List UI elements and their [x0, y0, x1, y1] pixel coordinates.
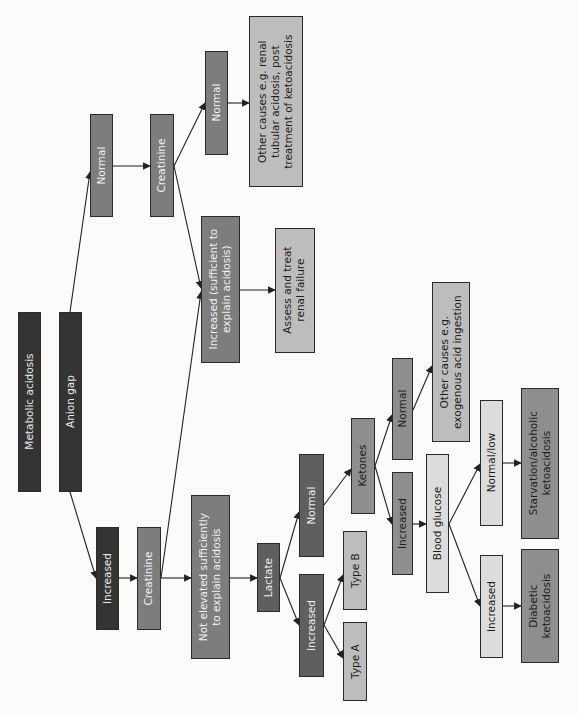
node-label: Increased — [305, 600, 318, 651]
node-label: Assess and treat renal failure — [282, 247, 308, 334]
node-label: Not elevated sufficiently to explain aci… — [197, 513, 223, 641]
node-label: Type B — [348, 553, 361, 588]
node-label: Anion gap — [64, 376, 77, 429]
node-anion-gap-increased: Increased — [96, 527, 119, 630]
node-label: Normal — [305, 487, 318, 525]
node-label: Lactate — [262, 558, 275, 597]
node-label: Creatinine — [155, 138, 168, 192]
node-label: Metabolic acidosis — [23, 354, 36, 450]
node-label: Other causes e.g. exogenous acid ingesti… — [438, 295, 464, 429]
node-type-b: Type B — [343, 531, 367, 610]
node-ketones-normal: Normal — [392, 358, 413, 460]
node-label: Normal — [396, 390, 409, 428]
node-lactate-increased: Increased — [299, 574, 324, 677]
node-lactate-normal: Normal — [299, 454, 324, 557]
node-ketones: Ketones — [351, 418, 375, 514]
node-label: Blood glucose — [431, 487, 444, 560]
node-glucose-normal-low: Normal/low — [480, 400, 503, 526]
node-diabetic-ketoacidosis: Diabetic ketoacidosis — [521, 549, 559, 663]
node-ketones-increased: Increased — [392, 472, 413, 575]
node-glucose-increased: Increased — [480, 555, 503, 658]
node-label: Increased — [396, 498, 409, 549]
node-creatinine-increased-sufficient: Increased (sufficient to explain acidosi… — [201, 216, 240, 363]
node-label: Starvation/alcoholic ketoacidosis — [527, 411, 553, 515]
node-label: Ketones — [356, 445, 369, 487]
node-label: Other causes e.g. renal tubular acidosis… — [256, 34, 295, 168]
node-type-a: Type A — [343, 622, 367, 701]
node-anion-gap-normal: Normal — [90, 114, 113, 217]
node-other-causes-exogenous: Other causes e.g. exogenous acid ingesti… — [432, 282, 470, 442]
node-assess-renal-failure: Assess and treat renal failure — [275, 228, 315, 353]
node-creatinine-upper: Creatinine — [150, 114, 174, 217]
node-not-elevated: Not elevated sufficiently to explain aci… — [191, 495, 230, 659]
node-label: Diabetic ketoacidosis — [527, 574, 553, 639]
node-label: Creatinine — [142, 551, 155, 605]
node-label: Normal — [210, 84, 223, 122]
node-metabolic-acidosis: Metabolic acidosis — [18, 312, 41, 492]
node-other-causes-rta: Other causes e.g. renal tubular acidosis… — [249, 16, 303, 187]
node-label: Normal — [95, 147, 108, 185]
node-anion-gap: Anion gap — [59, 312, 82, 492]
node-creatinine-normal: Normal — [205, 51, 228, 155]
node-label: Increased — [485, 581, 498, 632]
node-label: Increased (sufficient to explain acidosi… — [207, 229, 233, 350]
node-label: Increased — [101, 553, 114, 604]
node-lactate: Lactate — [257, 543, 280, 612]
node-starvation-ketoacidosis: Starvation/alcoholic ketoacidosis — [521, 388, 559, 539]
node-creatinine-lower: Creatinine — [137, 527, 161, 630]
node-label: Normal/low — [485, 433, 498, 492]
node-label: Type A — [348, 644, 361, 679]
node-blood-glucose: Blood glucose — [426, 454, 449, 593]
